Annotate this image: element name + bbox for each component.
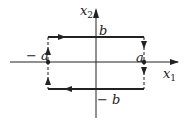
label-a: a [136, 51, 144, 64]
label-neg-a: − a [26, 49, 49, 62]
x-axis-label: x1 [163, 67, 176, 83]
y-axis-label: x2 [80, 4, 93, 20]
label-neg-b: − b [97, 93, 120, 106]
diagram-svg [0, 0, 187, 127]
label-b: b [99, 24, 107, 37]
phase-diagram: x2 x1 b − b a − a [0, 0, 187, 127]
